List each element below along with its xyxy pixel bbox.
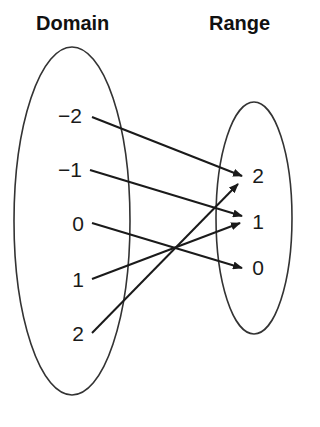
domain-value: 0: [72, 212, 84, 236]
domain-value: 1: [72, 268, 84, 292]
arrow-2-to-2: [92, 184, 238, 333]
arrow-neg1-to-1: [90, 170, 242, 216]
range-value: 0: [252, 256, 264, 280]
range-value: 1: [252, 210, 264, 234]
range-value: 2: [252, 164, 264, 188]
arrow-neg2-to-2: [92, 117, 242, 176]
domain-value: −1: [58, 158, 82, 182]
domain-value: −2: [58, 104, 82, 128]
domain-value: 2: [72, 322, 84, 346]
